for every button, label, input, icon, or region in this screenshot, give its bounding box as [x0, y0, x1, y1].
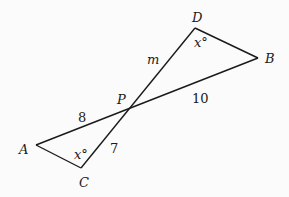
geometry-diagram: D B P A C m 10 8 7 x° x°: [0, 0, 289, 197]
point-label-D: D: [191, 10, 203, 25]
segment-AB: [36, 58, 258, 145]
label-7: 7: [110, 141, 118, 156]
point-label-C: C: [79, 175, 89, 190]
label-8: 8: [78, 110, 86, 125]
angle-label-D: x°: [194, 35, 208, 50]
angle-label-C: x°: [74, 147, 88, 162]
label-m: m: [147, 52, 159, 67]
label-10: 10: [192, 91, 209, 106]
segment-CD: [81, 28, 195, 168]
point-label-B: B: [264, 51, 275, 66]
point-label-P: P: [116, 92, 126, 107]
point-label-A: A: [18, 142, 28, 157]
